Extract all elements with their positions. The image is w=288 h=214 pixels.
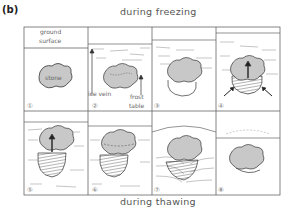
stone-label: stone (45, 74, 62, 81)
panel-5 (24, 122, 88, 187)
panel-8 (216, 130, 280, 173)
frost-label: frost (130, 93, 144, 100)
surface-label: surface (39, 37, 61, 44)
panel-1 (24, 48, 88, 88)
step-2: ② (92, 102, 98, 110)
panel-2 (88, 44, 152, 95)
ground-label: ground (40, 28, 61, 36)
step-1: ① (27, 102, 33, 110)
step-7: ⑦ (154, 186, 160, 194)
panel-7 (152, 126, 216, 182)
panel-3 (152, 40, 216, 96)
panel-4 (216, 33, 280, 96)
panel-6 (88, 126, 152, 186)
frost-heave-diagram: ground surface stone ① ice vein frost ta… (0, 0, 288, 214)
step-8: ⑧ (218, 186, 224, 194)
ice-vein-label: ice vein (88, 90, 111, 97)
table-label: table (129, 102, 145, 109)
step-5: ⑤ (27, 186, 33, 194)
step-3: ③ (154, 102, 160, 110)
step-6: ⑥ (92, 186, 98, 194)
step-4: ④ (218, 102, 224, 110)
